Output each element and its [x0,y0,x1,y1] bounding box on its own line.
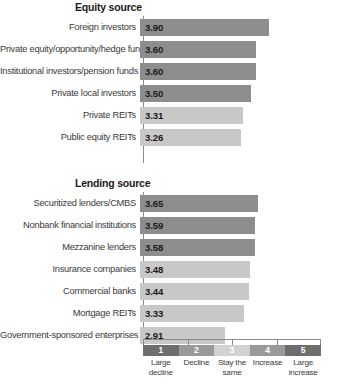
bar-value-label: 3.58 [145,239,163,256]
legend-segment-label: Stay the same [214,358,250,377]
bar-row: Public equity REITs3.26 [0,129,337,146]
bar-row: Private equity/opportunity/hedge funds3.… [0,41,337,58]
legend-label-row: Large declineDeclineStay the sameIncreas… [143,358,321,377]
bar-category-label: Public equity REITs [0,129,140,146]
bar-row: Mezzanine lenders3.58 [0,239,337,256]
bar-value-label: 3.48 [145,261,163,278]
bar-value-label: 3.59 [145,217,163,234]
bar-track: 3.48 [140,261,337,278]
legend-segment-number: 4 [265,345,270,356]
legend-color-bar: 12345 [143,345,321,356]
bar-row: Commercial banks3.44 [0,283,337,300]
bar-category-label: Mortgage REITs [0,305,140,322]
bar-track: 3.59 [140,217,337,234]
bar-category-label: Private local investors [0,85,140,102]
bar-category-label: Government-sponsored enterprises [0,327,140,344]
bar-row: Mortgage REITs3.33 [0,305,337,322]
bar-row: Nonbank financial institutions3.59 [0,217,337,234]
bar-value-label: 3.33 [145,305,163,322]
bar-category-label: Private REITs [0,107,140,124]
lending-source-title: Lending source [75,177,150,189]
bar-value-label: 3.44 [145,283,163,300]
bar-category-label: Nonbank financial institutions [0,217,140,234]
bar-row: Foreign investors3.90 [0,19,337,36]
bar-value-label: 3.31 [145,107,163,124]
legend-segment: 1 [143,345,179,356]
equity-source-title: Equity source [75,1,142,13]
bar-category-label: Mezzanine lenders [0,239,140,256]
legend-segment-label: Large decline [143,358,179,377]
bar-track: 3.31 [140,107,337,124]
legend-segment-label: Decline [179,358,215,377]
bar-value-label: 3.90 [145,19,163,36]
chart-container: Equity source Foreign investors3.90Priva… [0,0,337,390]
bar-value-label: 3.60 [145,41,163,58]
bar-row: Private local investors3.50 [0,85,337,102]
legend-segment-number: 1 [158,345,163,356]
bar-track: 3.65 [140,195,337,212]
legend-segment-number: 3 [230,345,235,356]
bar-track: 3.33 [140,305,337,322]
bar-value-label: 3.60 [145,63,163,80]
bar-category-label: Securitized lenders/CMBS [0,195,140,212]
bar-track: 3.44 [140,283,337,300]
legend-segment-number: 5 [301,345,306,356]
bar-track: 3.58 [140,239,337,256]
legend-segment-number: 2 [194,345,199,356]
bar-row: Insurance companies3.48 [0,261,337,278]
bar-category-label: Insurance companies [0,261,140,278]
bar-track: 3.50 [140,85,337,102]
legend-segment-label: Increase [250,358,286,377]
scale-legend: 12345 Large declineDeclineStay the sameI… [143,345,321,377]
bar-value-label: 3.50 [145,85,163,102]
bar-row: Private REITs3.31 [0,107,337,124]
legend-segment-label: Large increase [285,358,321,377]
legend-segment: 3 [214,345,250,356]
legend-segment: 4 [250,345,286,356]
bar-value-label: 3.26 [145,129,163,146]
bar-category-label: Commercial banks [0,283,140,300]
bar-track: 3.60 [140,41,337,58]
bar-value-label: 3.65 [145,195,163,212]
legend-segment: 5 [285,345,321,356]
bar-row: Institutional investors/pension funds3.6… [0,63,337,80]
bar-category-label: Institutional investors/pension funds [0,63,140,80]
legend-segment: 2 [179,345,215,356]
bar-category-label: Foreign investors [0,19,140,36]
bar-track: 3.90 [140,19,337,36]
bar-category-label: Private equity/opportunity/hedge funds [0,41,140,58]
bar-track: 3.26 [140,129,337,146]
bar-track: 3.60 [140,63,337,80]
bar-row: Securitized lenders/CMBS3.65 [0,195,337,212]
